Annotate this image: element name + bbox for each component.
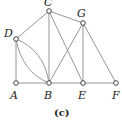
edge-g-f — [83, 23, 116, 83]
edge-d-b-upper-curve — [16, 39, 49, 83]
label-g: G — [77, 7, 86, 20]
figure-caption: (c) — [54, 107, 70, 118]
node-g — [81, 21, 86, 26]
label-a: A — [9, 89, 18, 102]
edge-c-e — [49, 11, 83, 83]
node-c — [47, 9, 52, 14]
edge-g-b — [49, 23, 83, 83]
node-f — [114, 81, 119, 86]
edges — [16, 11, 116, 83]
label-f: F — [111, 89, 120, 102]
node-b — [47, 81, 52, 86]
edge-d-b-lower-curve — [16, 39, 49, 83]
graph-diagram: A B C D E F G (c) — [0, 0, 122, 120]
label-b: B — [43, 89, 52, 102]
edge-d-c — [16, 11, 49, 39]
label-e: E — [77, 89, 86, 102]
label-d: D — [3, 27, 13, 40]
node-e — [81, 81, 86, 86]
node-d — [14, 37, 19, 42]
node-a — [14, 81, 19, 86]
label-c: C — [44, 0, 53, 9]
